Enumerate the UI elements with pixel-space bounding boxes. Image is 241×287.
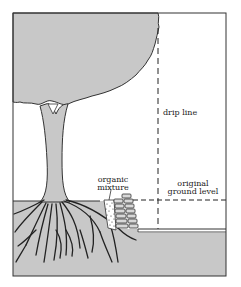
drip-line-label: drip line bbox=[163, 109, 197, 117]
drip-line-diagram: drip line organic mixture original groun… bbox=[0, 0, 241, 287]
organic-mixture-label-line2: mixture bbox=[96, 184, 130, 192]
original-ground-level-label-line2: ground level bbox=[164, 188, 222, 196]
diagram-svg bbox=[0, 0, 241, 287]
